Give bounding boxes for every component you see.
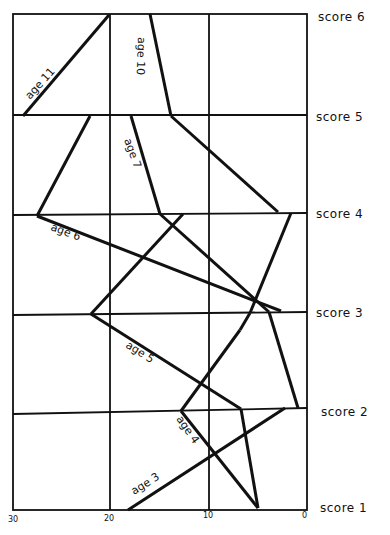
tick-20: 20 <box>104 514 114 523</box>
line-age-11 <box>23 15 109 116</box>
gridline-score3 <box>13 312 307 315</box>
line-age-3 <box>128 408 285 510</box>
grid <box>13 14 307 510</box>
label-age-3: age 3 <box>129 470 162 497</box>
label-score-6: score 6 <box>318 10 365 24</box>
line-score4-to-3 <box>160 214 269 312</box>
label-age-5: age 5 <box>123 339 156 366</box>
tick-0: 0 <box>302 511 307 520</box>
label-score-2: score 2 <box>321 405 368 419</box>
label-score-3: score 3 <box>316 306 363 320</box>
line-score3-to-2-right <box>269 312 298 408</box>
tick-10: 10 <box>203 511 213 520</box>
line-score3-to-2 <box>181 330 240 411</box>
line-score5-to-4 <box>171 116 278 212</box>
line-score2-to-1 <box>241 409 258 508</box>
line-score4-to-3-b <box>91 214 183 314</box>
line-bend-c <box>240 313 250 330</box>
line-age-10 <box>150 14 171 116</box>
label-score-4: score 4 <box>316 207 363 221</box>
line-score4-to-3-c <box>250 213 291 313</box>
tick-30: 30 <box>8 515 18 524</box>
line-score5-to-4-left <box>37 116 90 216</box>
label-score-5: score 5 <box>316 110 363 124</box>
score-age-chart: age 11 age 10 age 7 age 6 age 5 age 4 ag… <box>0 0 390 535</box>
gridline-score2 <box>13 408 307 414</box>
data-lines <box>23 14 298 510</box>
label-age-6: age 6 <box>49 221 83 244</box>
label-age-10: age 10 <box>134 37 148 75</box>
plot-frame <box>13 14 307 510</box>
label-score-1: score 1 <box>320 501 367 515</box>
